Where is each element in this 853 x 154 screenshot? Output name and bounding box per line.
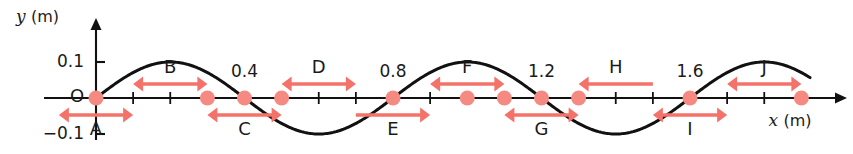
wave-marker-point	[534, 91, 549, 106]
x-tick-label-3: 1.6	[676, 63, 703, 80]
wave-plot-svg	[0, 0, 853, 154]
arrow-head-right	[420, 108, 430, 123]
arrow-label-j: J	[762, 58, 767, 76]
y-tick-label-1: −0.1	[43, 125, 84, 142]
arrow-j	[727, 77, 801, 92]
arrow-label-f: F	[462, 58, 472, 76]
arrow-label-a: A	[90, 120, 102, 138]
x-tick-label-0: 0.4	[231, 63, 258, 80]
arrow-h	[579, 77, 653, 92]
wave-marker-point	[237, 91, 252, 106]
arrow-head-left	[504, 108, 514, 123]
arrow-head-left	[207, 108, 217, 123]
arrow-head-right	[197, 77, 207, 92]
origin-label: O	[70, 87, 84, 105]
wave-marker-point	[386, 91, 401, 106]
arrow-label-b: B	[164, 58, 176, 76]
arrow-label-c: C	[238, 120, 251, 138]
arrow-b	[133, 77, 207, 92]
wave-marker-point	[497, 91, 512, 106]
arrow-head-left	[59, 108, 69, 123]
arrow-label-g: G	[535, 120, 549, 138]
wave-marker-point	[683, 91, 698, 106]
x-tick-label-2: 1.2	[528, 63, 555, 80]
wave-marker-point	[274, 91, 289, 106]
wave-marker-point	[794, 91, 809, 106]
arrow-head-left	[133, 77, 143, 92]
arrow-d	[282, 77, 356, 92]
arrow-head-left	[282, 77, 292, 92]
x-tick-label-1: 0.8	[379, 63, 406, 80]
x-axis-arrowhead	[835, 93, 847, 104]
y-tick-label-0: 0.1	[57, 53, 84, 70]
arrow-label-d: D	[312, 58, 326, 76]
arrow-head-left	[579, 77, 589, 92]
wave-marker-point	[200, 91, 215, 106]
wave-marker-point	[89, 91, 104, 106]
y-axis-label: y (m)	[16, 8, 59, 25]
arrow-head-right	[717, 108, 727, 123]
arrow-head-left	[430, 77, 440, 92]
arrow-head-left	[727, 77, 737, 92]
arrow-head-right	[494, 77, 504, 92]
wave-marker-point	[571, 91, 586, 106]
arrow-label-h: H	[609, 58, 623, 76]
arrow-head-right	[791, 77, 801, 92]
arrow-label-e: E	[387, 120, 398, 138]
wave-marker-point	[460, 91, 475, 106]
y-axis-arrowhead	[91, 18, 102, 30]
arrow-f	[430, 77, 504, 92]
x-axis-label: x (m)	[768, 112, 811, 129]
arrow-head-right	[346, 77, 356, 92]
arrow-label-i: I	[687, 120, 692, 138]
wave-diagram: 0.1−0.1ABCDEFGHIJ0.40.81.21.6Oy (m)x (m)	[0, 0, 853, 154]
arrow-head-right	[123, 108, 133, 123]
